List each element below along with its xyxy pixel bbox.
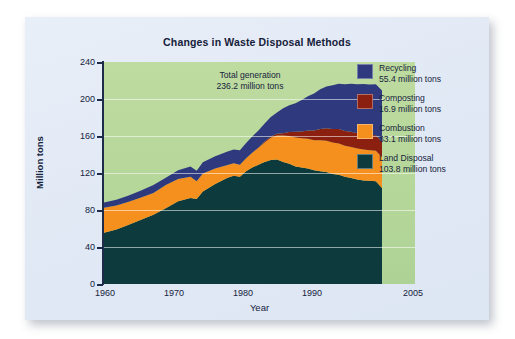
y-axis-tick-labels: 240 200 160 120 80 40 0 bbox=[63, 17, 95, 320]
legend-value-recycling: 55.4 million tons bbox=[379, 74, 483, 85]
y-axis-title: Million tons bbox=[34, 128, 45, 198]
y-tick-0 bbox=[97, 284, 103, 286]
legend-swatch-land-disposal-icon bbox=[357, 154, 373, 169]
legend-label-land-disposal: Land Disposal bbox=[379, 153, 483, 164]
legend-label-composting: Composting bbox=[379, 93, 483, 104]
legend-value-land-disposal: 103.8 million tons bbox=[379, 164, 483, 175]
legend-value-combustion: 33.1 million tons bbox=[379, 134, 483, 145]
y-tick-80 bbox=[97, 210, 103, 212]
y-tick-240 bbox=[97, 62, 103, 64]
y-tick-label-120: 120 bbox=[69, 169, 95, 178]
y-tick-label-80: 80 bbox=[69, 206, 95, 215]
screenshot-stage: Changes in Waste Disposal Methods 240 20… bbox=[0, 0, 515, 339]
total-generation-annotation: Total generation 236.2 million tons bbox=[175, 70, 325, 92]
chart-card-surface: Changes in Waste Disposal Methods 240 20… bbox=[25, 17, 489, 320]
chart-legend: Recycling 55.4 million tons Composting 1… bbox=[357, 63, 483, 183]
legend-swatch-composting-icon bbox=[357, 94, 373, 109]
x-tick-label-1970: 1970 bbox=[151, 288, 197, 298]
legend-label-combustion: Combustion bbox=[379, 123, 483, 134]
y-tick-label-240: 240 bbox=[69, 58, 95, 67]
x-tick-label-1990: 1990 bbox=[289, 288, 335, 298]
legend-label-recycling: Recycling bbox=[379, 63, 483, 74]
area-series-land-disposal bbox=[104, 160, 382, 284]
legend-item-land-disposal[interactable]: Land Disposal 103.8 million tons bbox=[357, 153, 483, 176]
legend-swatch-recycling-icon bbox=[357, 64, 373, 79]
gridline-40 bbox=[104, 247, 415, 248]
legend-item-composting[interactable]: Composting 16.9 million tons bbox=[357, 93, 483, 116]
legend-swatch-combustion-icon bbox=[357, 124, 373, 139]
x-tick-label-2005: 2005 bbox=[390, 288, 436, 298]
y-tick-label-40: 40 bbox=[69, 243, 95, 252]
annotation-line-2: 236.2 million tons bbox=[175, 81, 325, 92]
y-tick-200 bbox=[97, 99, 103, 101]
x-axis-title: Year bbox=[104, 302, 415, 313]
x-tick-label-1980: 1980 bbox=[220, 288, 266, 298]
y-tick-label-200: 200 bbox=[69, 95, 95, 104]
legend-item-recycling[interactable]: Recycling 55.4 million tons bbox=[357, 63, 483, 86]
x-tick-label-1960: 1960 bbox=[82, 288, 128, 298]
legend-value-composting: 16.9 million tons bbox=[379, 104, 483, 115]
chart-card: Changes in Waste Disposal Methods 240 20… bbox=[25, 17, 489, 320]
gridline-80 bbox=[104, 210, 415, 211]
annotation-line-1: Total generation bbox=[175, 70, 325, 81]
y-tick-160 bbox=[97, 136, 103, 138]
y-tick-label-160: 160 bbox=[69, 132, 95, 141]
y-tick-40 bbox=[97, 247, 103, 249]
legend-item-combustion[interactable]: Combustion 33.1 million tons bbox=[357, 123, 483, 146]
y-tick-120 bbox=[97, 173, 103, 175]
